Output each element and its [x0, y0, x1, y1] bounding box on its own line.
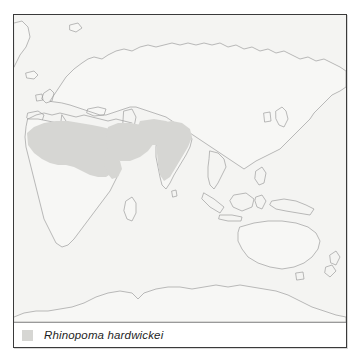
world-map-svg [14, 15, 346, 322]
map-legend: Rhinopoma hardwickei [14, 323, 346, 347]
legend-color-swatch [22, 330, 33, 341]
map-panel [14, 15, 346, 322]
distribution-map-figure: Rhinopoma hardwickei [13, 14, 347, 348]
legend-species-label: Rhinopoma hardwickei [44, 329, 163, 341]
